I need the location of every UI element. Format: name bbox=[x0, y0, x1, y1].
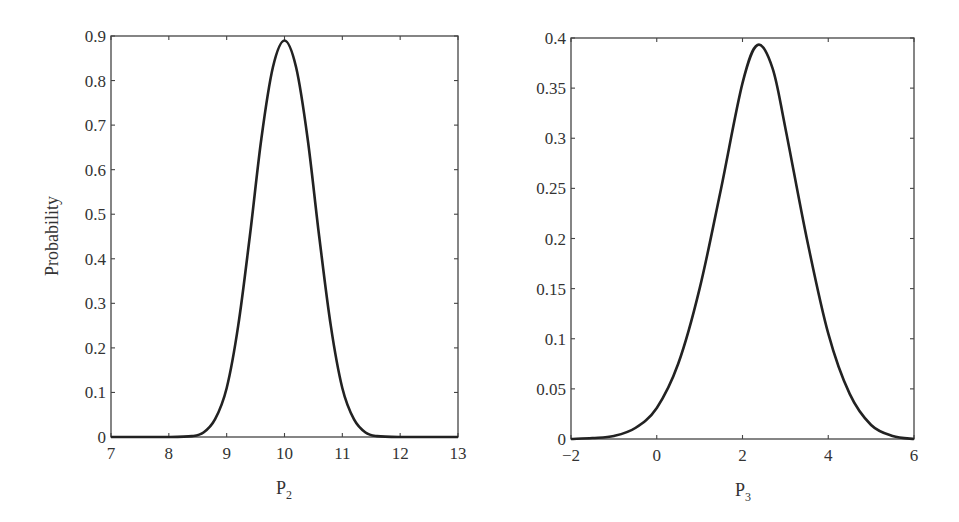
data-line bbox=[571, 45, 914, 439]
y-tick-label: 0.7 bbox=[85, 116, 107, 135]
y-tick-label: 0 bbox=[98, 428, 107, 447]
y-tick-label: 0.3 bbox=[85, 294, 106, 313]
x-tick-label: 10 bbox=[276, 444, 293, 463]
x-tick-label: 8 bbox=[165, 444, 174, 463]
y-tick-labels: 00.10.20.30.40.50.60.70.80.9 bbox=[85, 27, 107, 447]
y-tick-label: 0.15 bbox=[536, 280, 566, 299]
plot-p2: 00.10.20.30.40.50.60.70.80.9 78910111213… bbox=[42, 27, 467, 502]
y-tick-label: 0.1 bbox=[85, 383, 106, 402]
y-tick-label: 0.3 bbox=[545, 129, 566, 148]
y-tick-label: 0.5 bbox=[85, 205, 106, 224]
x-tick-label: 7 bbox=[107, 444, 116, 463]
y-tick-label: 0.05 bbox=[536, 380, 566, 399]
x-tick-label: 0 bbox=[653, 446, 662, 465]
y-tick-label: 0.6 bbox=[85, 161, 106, 180]
y-tick-label: 0.4 bbox=[85, 250, 107, 269]
axis-ticks bbox=[571, 38, 914, 439]
data-line bbox=[111, 41, 458, 438]
figure: 00.10.20.30.40.50.60.70.80.9 78910111213… bbox=[0, 0, 959, 522]
x-axis-label: P2 bbox=[276, 478, 292, 502]
y-tick-label: 0.2 bbox=[545, 230, 566, 249]
y-tick-label: 0.2 bbox=[85, 339, 106, 358]
y-tick-label: 0.1 bbox=[545, 330, 566, 349]
plot-frame bbox=[571, 38, 914, 439]
y-tick-label: 0.4 bbox=[545, 29, 567, 48]
axis-ticks bbox=[111, 36, 458, 437]
y-tick-label: 0.8 bbox=[85, 72, 106, 91]
x-tick-labels: −20246 bbox=[562, 446, 918, 465]
x-tick-label: 13 bbox=[450, 444, 467, 463]
x-tick-label: 9 bbox=[222, 444, 231, 463]
plot-p3: 00.050.10.150.20.250.30.350.4 −20246 P3 bbox=[536, 29, 918, 504]
plot-frame bbox=[111, 36, 458, 437]
x-tick-label: 12 bbox=[392, 444, 409, 463]
x-tick-label: 4 bbox=[824, 446, 833, 465]
x-tick-label: 2 bbox=[738, 446, 747, 465]
x-tick-labels: 78910111213 bbox=[107, 444, 467, 463]
x-tick-label: −2 bbox=[562, 446, 580, 465]
x-tick-label: 11 bbox=[334, 444, 350, 463]
y-tick-labels: 00.050.10.150.20.250.30.350.4 bbox=[536, 29, 566, 449]
y-tick-label: 0.9 bbox=[85, 27, 106, 46]
y-tick-label: 0.25 bbox=[536, 179, 566, 198]
x-tick-label: 6 bbox=[910, 446, 919, 465]
y-tick-label: 0.35 bbox=[536, 79, 566, 98]
y-axis-label: Probability bbox=[42, 196, 62, 276]
x-axis-label: P3 bbox=[735, 480, 751, 504]
